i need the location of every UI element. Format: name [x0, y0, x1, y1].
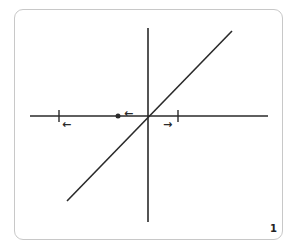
arrow-left-icon: ←	[62, 118, 71, 131]
arrow-left-icon: ←	[124, 107, 133, 120]
axis-point	[116, 114, 121, 119]
diagram-canvas: ←←→	[0, 0, 299, 252]
arrow-right-icon: →	[163, 118, 172, 131]
page-number: 1	[270, 223, 277, 234]
